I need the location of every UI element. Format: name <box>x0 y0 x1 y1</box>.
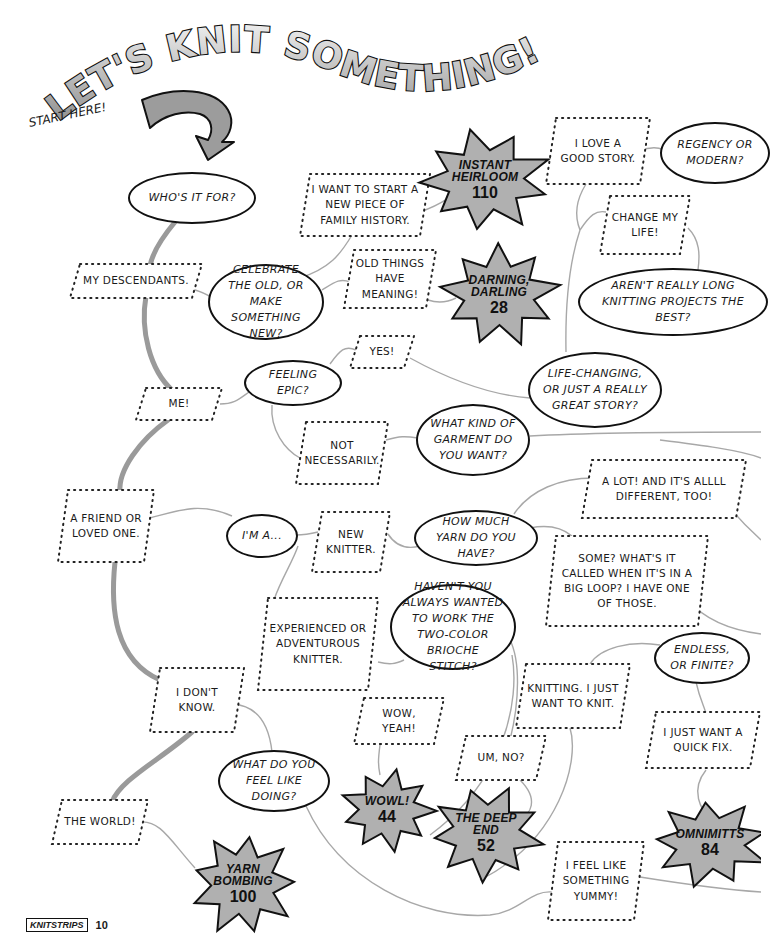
result-name: WOWL! <box>365 795 409 808</box>
question-text: CELEBRATE THE OLD, OR MAKE SOMETHING NEW… <box>210 262 322 342</box>
answer-alot: A LOT! AND IT'S ALLLL DIFFERENT, TOO! <box>582 460 746 518</box>
answer-text: KNITTING. I JUST WANT TO KNIT. <box>516 681 630 711</box>
result-page: 84 <box>701 841 719 859</box>
answer-text: I LOVE A GOOD STORY. <box>546 136 650 166</box>
answer-text: UM, NO? <box>467 750 534 765</box>
answer-text: OLD THINGS HAVE MEANING! <box>344 256 436 302</box>
knitstrips-badge: KNITSTRIPS <box>26 918 88 932</box>
question-brioche: HAVEN'T YOU ALWAYS WANTED TO WORK THE TW… <box>390 584 516 670</box>
question-text: ENDLESS, OR FINITE? <box>656 642 748 674</box>
question-epic: FEELING EPIC? <box>244 360 342 406</box>
answer-friend: A FRIEND OR LOVED ONE. <box>58 490 154 562</box>
answer-oldthings: OLD THINGS HAVE MEANING! <box>344 250 436 308</box>
svg-text:LET'S KNIT SOMETHING!: LET'S KNIT SOMETHING! <box>38 18 546 128</box>
answer-text: A FRIEND OR LOVED ONE. <box>58 511 154 541</box>
result-page: 28 <box>490 299 508 317</box>
answer-text: NOT NECESSARILY. <box>294 438 389 468</box>
answer-some: SOME? WHAT'S IT CALLED WHEN IT'S IN A BI… <box>546 536 708 626</box>
answer-wowyeah: WOW, YEAH! <box>354 698 444 744</box>
answer-text: WOW, YEAH! <box>354 706 444 736</box>
answer-descendants: MY DESCENDANTS. <box>70 264 202 298</box>
answer-text: I WANT TO START A NEW PIECE OF FAMILY HI… <box>300 182 430 228</box>
answer-yes: YES! <box>350 336 414 368</box>
result-page: 100 <box>230 888 257 906</box>
question-garment: WHAT KIND OF GARMENT DO YOU WANT? <box>416 404 530 476</box>
question-long: AREN'T REALLY LONG KNITTING PROJECTS THE… <box>578 268 768 336</box>
answer-dontknow: I DON'T KNOW. <box>150 668 244 732</box>
result-wow: WOWL!44 <box>340 770 434 850</box>
answer-goodstory: I LOVE A GOOD STORY. <box>546 118 650 184</box>
question-text: LIFE-CHANGING, OR JUST A REALLY GREAT ST… <box>530 366 660 414</box>
answer-family: I WANT TO START A NEW PIECE OF FAMILY HI… <box>300 174 430 236</box>
answer-world: THE WORLD! <box>52 800 148 844</box>
answer-knitting: KNITTING. I JUST WANT TO KNIT. <box>516 664 630 728</box>
result-name: OMNIMITTS <box>675 828 744 841</box>
result-name: DARNING, DARLING <box>462 274 535 299</box>
answer-text: A LOT! AND IT'S ALLLL DIFFERENT, TOO! <box>582 474 746 504</box>
answer-text: YES! <box>359 344 404 359</box>
answer-text: EXPERIENCED OR ADVENTUROUS KNITTER. <box>258 621 378 667</box>
question-regency: REGENCY OR MODERN? <box>660 122 770 184</box>
answer-text: CHANGE MY LIFE! <box>600 210 690 240</box>
result-name: INSTANT HEIRLOOM <box>445 159 526 184</box>
answer-experienced: EXPERIENCED OR ADVENTUROUS KNITTER. <box>258 598 378 690</box>
result-omnimitts: OMNIMITTS84 <box>652 800 768 886</box>
page-number: 10 <box>96 919 108 931</box>
question-text: AREN'T REALLY LONG KNITTING PROJECTS THE… <box>580 278 766 326</box>
question-text: HOW MUCH YARN DO YOU HAVE? <box>416 514 536 562</box>
question-text: I'M A... <box>232 528 292 544</box>
answer-me: ME! <box>136 388 222 420</box>
question-who: WHO'S IT FOR? <box>128 172 256 224</box>
question-lifechanging: LIFE-CHANGING, OR JUST A REALLY GREAT ST… <box>528 352 662 428</box>
answer-umno: UM, NO? <box>456 736 546 780</box>
footer: KNITSTRIPS 10 <box>26 918 108 932</box>
result-yarnbombing: YARN BOMBING100 <box>190 834 296 934</box>
question-feel: WHAT DO YOU FEEL LIKE DOING? <box>218 750 330 812</box>
question-text: REGENCY OR MODERN? <box>662 137 768 169</box>
result-heirloom: INSTANT HEIRLOOM110 <box>420 130 550 230</box>
result-darning: DARNING, DARLING28 <box>440 245 558 345</box>
answer-text: I JUST WANT A QUICK FIX. <box>646 725 760 755</box>
question-text: WHO'S IT FOR? <box>138 190 245 206</box>
answer-changelife: CHANGE MY LIFE! <box>600 196 690 254</box>
result-deepend: THE DEEP END52 <box>430 786 542 880</box>
answer-quickfix: I JUST WANT A QUICK FIX. <box>646 712 760 768</box>
answer-yummy: I FEEL LIKE SOMETHING YUMMY! <box>548 842 644 920</box>
result-name: YARN BOMBING <box>210 863 276 888</box>
question-text: HAVEN'T YOU ALWAYS WANTED TO WORK THE TW… <box>392 579 514 675</box>
result-page: 52 <box>477 837 495 855</box>
answer-text: ME! <box>159 396 200 411</box>
answer-text: SOME? WHAT'S IT CALLED WHEN IT'S IN A BI… <box>546 551 708 612</box>
answer-newknitter: NEW KNITTER. <box>312 512 390 572</box>
answer-text: THE WORLD! <box>54 814 145 829</box>
answer-text: MY DESCENDANTS. <box>73 273 199 288</box>
result-page: 44 <box>378 808 396 826</box>
answer-notnecessarily: NOT NECESSARILY. <box>296 422 388 484</box>
question-text: WHAT DO YOU FEEL LIKE DOING? <box>220 757 328 805</box>
result-page: 110 <box>472 184 498 202</box>
page-title-art: LET'S KNIT SOMETHING! <box>38 18 546 128</box>
answer-text: I DON'T KNOW. <box>150 685 244 715</box>
question-endless: ENDLESS, OR FINITE? <box>654 632 750 684</box>
result-name: THE DEEP END <box>451 812 520 837</box>
question-text: FEELING EPIC? <box>246 367 340 399</box>
question-im: I'M A... <box>226 514 298 558</box>
answer-text: NEW KNITTER. <box>312 527 390 557</box>
question-yarn: HOW MUCH YARN DO YOU HAVE? <box>414 510 538 566</box>
answer-text: I FEEL LIKE SOMETHING YUMMY! <box>548 858 644 904</box>
start-arrow-icon <box>142 91 234 160</box>
question-text: WHAT KIND OF GARMENT DO YOU WANT? <box>418 416 528 464</box>
question-celebrate: CELEBRATE THE OLD, OR MAKE SOMETHING NEW… <box>208 264 324 340</box>
